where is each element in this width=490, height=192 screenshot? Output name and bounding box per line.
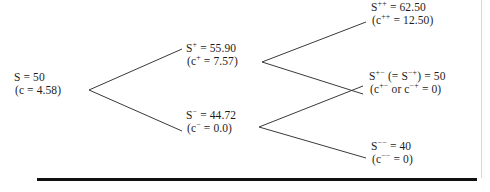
node-down-price: S− = 44.72 bbox=[186, 109, 236, 122]
node-up-down-option: (c+− or c−+ = 0) bbox=[369, 83, 445, 96]
node-up-up-option-superscript: ++ bbox=[381, 12, 390, 21]
node-down-down-price-superscript: −− bbox=[378, 138, 387, 147]
node-up-price: S+ = 55.90 bbox=[186, 42, 238, 55]
tree-node-down: S− = 44.72 (c− = 0.0) bbox=[186, 109, 236, 135]
node-down-down-option-superscript: −− bbox=[381, 151, 390, 160]
edge-up-to-upup bbox=[262, 22, 366, 62]
edge-down-to-downdown bbox=[259, 127, 366, 158]
binomial-tree-figure: S = 50 (c = 4.58) S+ = 55.90 (c+ = 7.57)… bbox=[0, 0, 490, 192]
node-up-up-price-superscript: ++ bbox=[378, 0, 387, 8]
tree-node-up-up: S++ = 62.50 (c++ = 12.50) bbox=[371, 1, 433, 27]
node-up-down-option-superscript-alt: −+ bbox=[410, 81, 419, 90]
node-down-down-option: (c−− = 0) bbox=[371, 153, 413, 166]
node-up-down-option-superscript: +− bbox=[379, 81, 388, 90]
node-up-down-price-superscript-alt: −+ bbox=[408, 68, 417, 77]
node-root-price: S = 50 bbox=[14, 71, 61, 84]
node-root-option: (c = 4.58) bbox=[14, 84, 61, 97]
node-up-up-option: (c++ = 12.50) bbox=[371, 14, 433, 27]
node-down-option: (c− = 0.0) bbox=[186, 122, 236, 135]
node-up-down-price-superscript: +− bbox=[376, 68, 385, 77]
tree-node-up-down: S+− (= S−+) = 50 (c+− or c−+ = 0) bbox=[369, 70, 445, 96]
node-down-down-price: S−− = 40 bbox=[371, 140, 413, 153]
edge-down-to-updown bbox=[259, 86, 363, 127]
tree-node-up: S+ = 55.90 (c+ = 7.57) bbox=[186, 42, 238, 68]
edge-root-to-down bbox=[89, 90, 182, 131]
tree-node-root: S = 50 (c = 4.58) bbox=[14, 71, 61, 97]
tree-node-down-down: S−− = 40 (c−− = 0) bbox=[371, 140, 413, 166]
page-right-edge-line bbox=[481, 0, 482, 178]
figure-bottom-rule bbox=[37, 178, 477, 181]
edge-root-to-up bbox=[89, 49, 182, 90]
edge-up-to-updown bbox=[262, 62, 363, 94]
node-up-option: (c+ = 7.57) bbox=[186, 55, 238, 68]
